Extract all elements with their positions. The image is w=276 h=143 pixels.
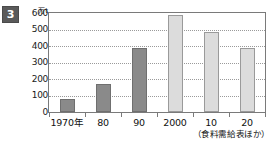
plot-area (48, 12, 266, 113)
x-axis-tick-label: 2000 (157, 117, 193, 128)
gridline (49, 46, 265, 47)
y-axis-tick-label: 100 (24, 91, 48, 100)
bar (60, 99, 75, 112)
x-axis-tick (265, 113, 266, 117)
x-axis-tick-label: 1970年 (49, 117, 85, 128)
y-axis-tick-label: 200 (24, 75, 48, 84)
y-axis-tick-label: 500 (24, 25, 48, 34)
x-axis-tick-label: 80 (85, 117, 121, 128)
figure-number-badge: 3 (2, 6, 19, 23)
bar (168, 15, 183, 112)
source-note: （食料需給表ほか） (193, 127, 270, 139)
bar-chart: 万t 1970年809020001020 （食料需給表ほか） 010020030… (22, 8, 272, 140)
bar (96, 84, 111, 112)
bar (240, 48, 255, 112)
bar (132, 48, 147, 112)
plot-inner (49, 13, 265, 112)
y-axis-tick-label: 300 (24, 58, 48, 67)
gridline (49, 96, 265, 97)
gridline (49, 30, 265, 31)
y-axis-tick-label: 0 (24, 108, 48, 117)
y-axis-tick-label: 600 (24, 9, 48, 18)
gridline (49, 63, 265, 64)
gridline (49, 79, 265, 80)
bar (204, 32, 219, 112)
y-axis-tick-label: 400 (24, 42, 48, 51)
x-axis-tick-label: 90 (121, 117, 157, 128)
